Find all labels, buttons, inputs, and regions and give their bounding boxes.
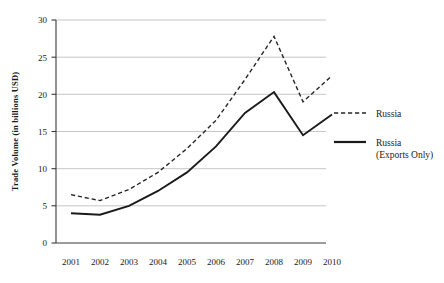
chart-figure: 30 25 20 15 10 5 0 Trade Volume (in bill… bbox=[0, 0, 444, 283]
x-tick-label-2003: 2003 bbox=[120, 257, 139, 267]
y-tick-label-15: 15 bbox=[38, 127, 48, 137]
legend-label-russia-exports: Russia bbox=[376, 138, 402, 148]
x-tick-label-2006: 2006 bbox=[207, 257, 226, 267]
x-tick-label-2008: 2008 bbox=[265, 257, 284, 267]
y-tick-label-25: 25 bbox=[38, 53, 48, 63]
line-chart: 30 25 20 15 10 5 0 Trade Volume (in bill… bbox=[0, 0, 444, 283]
x-tick-label-2001: 2001 bbox=[62, 257, 80, 267]
x-tick-label-2005: 2005 bbox=[178, 257, 197, 267]
x-tick-label-2002: 2002 bbox=[91, 257, 109, 267]
x-tick-label-2010: 2010 bbox=[323, 257, 342, 267]
x-tick-label-2004: 2004 bbox=[149, 257, 168, 267]
y-axis-title: Trade Volume (in billions USD) bbox=[10, 72, 20, 192]
y-tick-label-5: 5 bbox=[43, 201, 48, 211]
y-tick-label-20: 20 bbox=[38, 90, 48, 100]
y-tick-label-0: 0 bbox=[43, 238, 48, 248]
y-tick-label-10: 10 bbox=[38, 164, 48, 174]
legend-label-russia-exports-line2: (Exports Only) bbox=[376, 150, 433, 161]
legend-label-russia: Russia bbox=[376, 109, 402, 119]
y-tick-label-30: 30 bbox=[38, 15, 48, 25]
x-tick-label-2009: 2009 bbox=[294, 257, 313, 267]
x-tick-label-2007: 2007 bbox=[236, 257, 255, 267]
